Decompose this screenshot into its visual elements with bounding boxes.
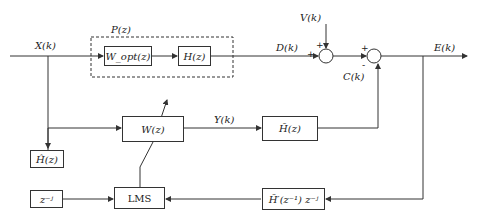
block-w-opt-label: W_opt(z) <box>106 51 151 62</box>
block-h: H(z) <box>178 46 211 66</box>
block-lms: LMS <box>114 187 165 209</box>
sign-sum2-left: + <box>361 44 369 53</box>
block-delay: z⁻ʲ <box>30 190 63 208</box>
block-h-bar-label: H̄(z) <box>279 123 301 134</box>
block-h-hat: Ĥ(z) <box>30 150 64 168</box>
block-h-bar: H̄(z) <box>262 116 318 141</box>
block-h-bar-inverse-label: H̄′(z⁻¹) z⁻ʲ <box>269 194 319 205</box>
block-w-opt: W_opt(z) <box>104 46 152 66</box>
label-y-k: Y(k) <box>214 115 234 125</box>
block-h-label: H(z) <box>184 51 206 62</box>
label-e-k: E(k) <box>434 43 455 53</box>
block-w: W(z) <box>122 116 184 142</box>
diagram-wires <box>0 0 477 224</box>
block-delay-label: z⁻ʲ <box>40 194 53 205</box>
sign-sum1-left: + <box>307 50 315 59</box>
block-w-label: W(z) <box>141 124 164 135</box>
sign-sum1-top: + <box>316 41 324 50</box>
block-h-hat-label: Ĥ(z) <box>36 154 58 165</box>
label-p-z: P(z) <box>111 25 131 35</box>
block-lms-label: LMS <box>128 193 152 204</box>
label-v-k: V(k) <box>300 13 321 23</box>
block-diagram: P(z) X(k) V(k) D(k) E(k) C(k) Y(k) + + +… <box>0 0 477 224</box>
label-x-k: X(k) <box>35 41 56 51</box>
label-d-k: D(k) <box>276 43 298 53</box>
label-c-k: C(k) <box>343 72 365 82</box>
sign-sum2-bottom: - <box>362 61 365 70</box>
block-h-bar-inverse: H̄′(z⁻¹) z⁻ʲ <box>262 188 325 210</box>
